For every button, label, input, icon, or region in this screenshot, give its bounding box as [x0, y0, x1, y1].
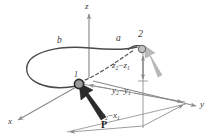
axis-y [93, 81, 196, 106]
axis-label-z: z [85, 2, 89, 11]
dim-y-sub1: 2 [116, 90, 119, 96]
dim-x-sub1: 2 [105, 115, 108, 121]
curve-label-b: b [57, 36, 62, 46]
axis-label-y: y [200, 100, 204, 109]
dimension-label-delta-y: y2−y1 [112, 86, 131, 95]
dim-x-sub2: 1 [117, 115, 120, 121]
dimension-label-delta-z: z2−z1 [112, 61, 130, 70]
dim-z-sub1: 2 [116, 65, 119, 71]
node-label-2: 2 [138, 29, 143, 39]
axis-label-x: x [8, 117, 12, 126]
dim-z-sub2: 1 [127, 65, 130, 71]
dimension-label-delta-x: x2−x1 [101, 111, 120, 120]
node-label-1: 1 [74, 71, 78, 79]
dim-z-v1: z [112, 60, 116, 70]
figure-canvas: z x y b a 1 2 P z2−z1 y2−y1 x2−x1 [0, 0, 217, 139]
dim-y-sub2: 1 [128, 90, 131, 96]
force-label-P: P [101, 120, 107, 130]
node-marker-1 [74, 79, 83, 88]
reaction-arrow-node-2 [145, 46, 162, 77]
curve-label-a: a [116, 34, 121, 44]
node-marker-2 [138, 45, 145, 52]
